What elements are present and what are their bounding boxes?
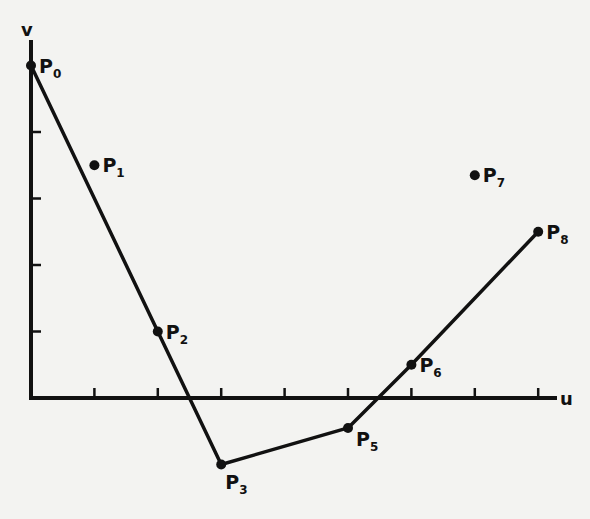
path-layer [31,66,538,465]
point-label-p2: P2 [166,321,188,347]
point-label-p6: P6 [419,354,441,380]
point-label-p3: P3 [225,471,247,497]
point-p0 [26,61,36,71]
point-p8 [533,227,543,237]
v-axis-label: v [21,19,33,40]
point-label-p7: P7 [483,164,505,190]
point-p3 [216,460,226,470]
point-p5 [343,423,353,433]
point-p7 [470,170,480,180]
point-label-p5: P5 [356,428,378,454]
point-p2 [153,327,163,337]
point-label-p8: P8 [546,221,568,247]
polygonal-path-diagram: P0P1P2P3P5P6P7P8 u v [0,0,590,519]
point-label-p1: P1 [102,154,124,180]
u-axis-label: u [560,388,573,409]
point-label-p0: P0 [39,55,61,81]
polygonal-path [31,66,538,465]
axes [31,42,555,398]
point-p6 [406,360,416,370]
points-layer: P0P1P2P3P5P6P7P8 [26,55,568,497]
point-p1 [89,160,99,170]
